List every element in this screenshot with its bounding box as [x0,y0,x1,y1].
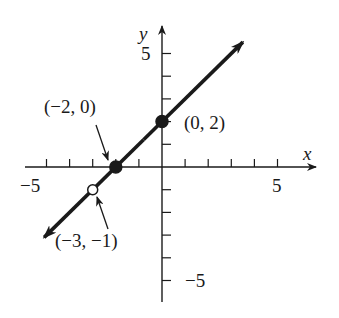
filled-point [110,161,122,173]
x-tick-label-pos5: 5 [272,176,282,195]
graph-figure: y x −5 5 5 −5 (−2, 0) (0, 2) (−3, −1) [0,0,339,318]
point-label-0-2: (0, 2) [184,113,225,132]
plot-area [0,0,339,318]
pointer-neg2-0 [96,125,108,160]
y-axis-label: y [139,24,147,43]
axes [25,26,316,302]
y-tick-label-pos5: 5 [141,44,151,63]
x-axis-label: x [303,144,311,163]
data-line [44,42,243,237]
open-point [88,185,98,195]
y-tick-label-neg5: −5 [185,271,205,290]
point-label-neg3-neg1: (−3, −1) [55,231,118,250]
point-label-neg2-0: (−2, 0) [44,97,96,116]
filled-point [156,116,168,128]
pointer-neg3-neg1 [97,197,108,229]
x-tick-label-neg5: −5 [20,176,40,195]
